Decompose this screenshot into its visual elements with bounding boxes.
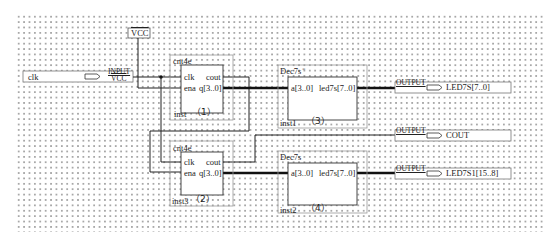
output-cout-type: OUTPUT [396,127,426,135]
port-inst2-led7s: led7s[7..0] [319,169,355,178]
block-inst1-marker: * [302,67,306,74]
clk-pin-name: clk [28,73,38,82]
output-led7s-type: OUTPUT [396,79,426,87]
output-led7s1-type: OUTPUT [396,165,426,173]
block-inst3-module: cnt4e [173,144,191,153]
port-inst3-clk: clk [184,158,194,167]
block-inst2-tag: （4） [306,204,330,213]
port-inst-cout: cout [206,73,221,82]
block-inst-tag: （1） [192,108,216,117]
port-inst2-a: a[3..0] [291,169,313,178]
output-led7s1-name: LED7S1[15..8] [446,169,498,178]
block-inst2-module: Dec7s [280,153,301,162]
output-led7s-name: LED7S[7..0] [446,83,490,92]
output-cout-name: COUT [446,131,469,140]
port-inst3-cout: cout [206,158,221,167]
clk-pin-default: VCC [111,75,126,83]
block-inst-module: cnt4e [173,57,191,66]
block-inst3-instance: inst3 [172,197,189,206]
clk-input-pin[interactable] [23,71,182,82]
block-inst1-instance: inst1 [280,119,297,128]
vcc-label: VCC [131,29,148,38]
schematic-wires [0,0,557,242]
port-inst3-ena: ena [184,169,196,178]
block-inst2-instance: inst2 [280,206,297,215]
schematic-canvas[interactable]: VCC clk INPUT VCC cnt4e clk ena cout q[3… [0,0,557,242]
wire-cout-output [223,135,395,162]
block-inst3-tag: （2） [191,195,215,204]
port-inst-clk: clk [184,73,194,82]
port-inst-ena: ena [184,84,196,93]
block-inst1-module: Dec7s [280,67,301,76]
port-inst1-a: a[3..0] [291,84,313,93]
port-inst3-q: q[3..0] [199,169,222,178]
block-inst-instance: inst [174,110,186,119]
block-inst1-tag: （3） [306,117,330,126]
port-inst1-led7s: led7s[7..0] [319,84,355,93]
port-inst-q: q[3..0] [199,84,222,93]
